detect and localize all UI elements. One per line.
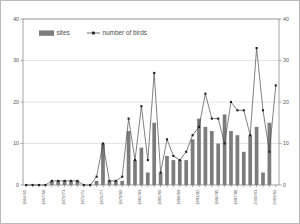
bar-33 [236,135,240,185]
xtick-label-0: 1964/65 [22,189,27,205]
ytick-label-left-30: 30 [13,57,19,63]
xtick-label-18: 1982/83 [137,189,142,205]
ytick-label-left-20: 20 [13,99,19,105]
line-marker-27 [198,126,200,128]
line-marker-7 [70,180,72,182]
line-marker-25 [185,151,187,153]
line-marker-33 [236,109,238,111]
chart-frame: 0102030400102030401964/651967/681970/711… [0,0,300,224]
line-marker-35 [249,134,251,136]
legend-label-sites: sites [57,29,70,36]
bar-34 [242,152,246,185]
ytick-label-right-0: 0 [283,182,286,188]
bar-24 [178,160,182,185]
line-marker-12 [102,142,104,144]
line-marker-23 [172,155,174,157]
line-marker-8 [76,180,78,182]
line-marker-19 [147,159,149,161]
ytick-label-right-40: 40 [283,16,289,22]
legend-label-number-of-birds: number of birds [103,29,147,36]
xtick-label-9: 1973/74 [80,189,85,205]
xtick-label-30: 1994/95 [214,189,219,205]
bar-30 [216,144,220,186]
line-marker-30 [217,118,219,120]
legend-swatch-sites [39,30,54,35]
line-marker-21 [160,172,162,174]
bar-35 [248,135,252,185]
bar-25 [184,160,188,185]
line-marker-31 [224,142,226,144]
bar-19 [146,173,150,185]
bar-21 [159,173,163,185]
xtick-label-6: 1970/71 [61,189,66,205]
ytick-label-right-10: 10 [283,140,289,146]
xtick-label-27: 1991/92 [195,189,200,205]
line-marker-10 [89,184,91,186]
line-marker-36 [256,47,258,49]
bar-26 [191,139,195,185]
line-marker-26 [192,134,194,136]
bar-29 [210,131,214,185]
xtick-label-36: 2000/01 [253,189,258,205]
bar-15 [120,181,124,185]
ytick-label-left-0: 0 [16,182,19,188]
line-marker-15 [121,176,123,178]
line-marker-11 [96,176,98,178]
line-marker-18 [140,105,142,107]
bar-22 [165,156,169,185]
line-marker-14 [115,180,117,182]
line-marker-3 [44,184,46,186]
line-marker-6 [64,180,66,182]
line-marker-5 [57,180,59,182]
xtick-label-12: 1976/77 [99,189,104,205]
legend-marker-birds [92,32,95,35]
xtick-label-3: 1967/68 [41,189,46,205]
xtick-label-33: 1997/98 [233,189,238,205]
chart-canvas: 0102030400102030401964/651967/681970/711… [1,1,300,224]
combo-chart: 0102030400102030401964/651967/681970/711… [1,1,300,224]
line-marker-2 [38,184,40,186]
ytick-label-right-30: 30 [283,57,289,63]
line-marker-0 [25,184,27,186]
line-marker-34 [243,109,245,111]
line-marker-28 [204,93,206,95]
line-marker-37 [262,109,264,111]
line-marker-32 [230,101,232,103]
bar-31 [223,114,227,185]
line-marker-4 [51,180,53,182]
ytick-label-left-10: 10 [13,140,19,146]
ytick-label-left-40: 40 [13,16,19,22]
bar-18 [140,148,144,185]
bar-37 [261,173,265,185]
bar-28 [204,127,208,185]
line-marker-38 [268,151,270,153]
line-marker-13 [108,180,110,182]
line-marker-16 [128,118,130,120]
bar-38 [268,123,272,185]
xtick-label-39: 2003/04 [272,189,277,205]
line-marker-9 [83,184,85,186]
xtick-label-21: 1985/86 [157,189,162,205]
line-marker-29 [211,118,213,120]
bar-36 [255,127,259,185]
line-marker-24 [179,159,181,161]
bar-16 [127,131,131,185]
xtick-label-24: 1988/89 [176,189,181,205]
bar-32 [229,131,233,185]
line-marker-1 [32,184,34,186]
bar-23 [172,160,176,185]
bar-20 [152,123,156,185]
bar-11 [95,181,99,185]
line-marker-17 [134,159,136,161]
line-marker-22 [166,138,168,140]
xtick-label-15: 1979/80 [118,189,123,205]
line-marker-20 [153,72,155,74]
ytick-label-right-20: 20 [283,99,289,105]
bar-17 [133,160,137,185]
line-marker-39 [275,84,277,86]
